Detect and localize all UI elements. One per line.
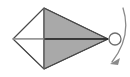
rotation-diagram-figure	[0, 0, 130, 77]
axis-point-circle-icon	[109, 33, 121, 45]
